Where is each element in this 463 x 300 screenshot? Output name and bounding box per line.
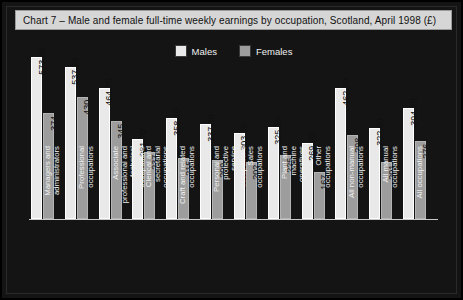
bar-males[interactable]: 325.20 bbox=[268, 127, 279, 219]
category-tick: Personal and protective service occupati… bbox=[200, 222, 234, 298]
category-tick: All non-manual occupations bbox=[335, 222, 369, 298]
category-label: Associate professional and technical occ… bbox=[112, 146, 146, 222]
bar-value-label: 537.20 bbox=[70, 57, 80, 85]
category-label: All non-manual occupations bbox=[348, 146, 365, 222]
bar-males[interactable]: 573.40 bbox=[31, 57, 42, 219]
category-label: Personal and protective service occupati… bbox=[213, 146, 247, 222]
category-tick: Other occupations bbox=[302, 222, 336, 298]
category-tick: Managers and administrators bbox=[31, 222, 65, 298]
category-label: All occupations bbox=[416, 146, 425, 222]
bar-males[interactable]: 462.30 bbox=[335, 88, 346, 219]
category-tick: Sales occupations bbox=[234, 222, 268, 298]
bar-value-label: 462.30 bbox=[341, 78, 351, 106]
bar-males[interactable]: 537.20 bbox=[65, 67, 76, 219]
category-label: Clerical and secretarial occupations bbox=[145, 146, 171, 222]
legend-item-males[interactable]: Males bbox=[175, 45, 217, 57]
bar-value-label: 464.70 bbox=[104, 78, 114, 106]
category-label: Professional occupations bbox=[78, 146, 95, 222]
category-label: Other occupations bbox=[315, 146, 332, 222]
category-tick: Professional occupations bbox=[65, 222, 99, 298]
category-tick: Plant and machine operatives bbox=[268, 222, 302, 298]
bar-value-label: 394.60 bbox=[409, 98, 419, 126]
bar-value-label: 374.10 bbox=[49, 103, 59, 131]
category-label: Craft and related occupations bbox=[179, 146, 196, 222]
bar-males[interactable]: 394.60 bbox=[403, 108, 414, 219]
bar-value-label: 325.20 bbox=[273, 117, 283, 145]
category-label: Managers and administrators bbox=[44, 146, 61, 222]
page-title: Chart 7 – Male and female full-time week… bbox=[23, 15, 436, 26]
legend-item-females[interactable]: Females bbox=[239, 45, 292, 57]
bar-value-label: 430.30 bbox=[82, 87, 92, 115]
bar-value-label: 358.40 bbox=[172, 108, 182, 136]
legend-label: Females bbox=[256, 46, 292, 57]
bar-value-label: 337.30 bbox=[206, 114, 216, 142]
chart-frame: Chart 7 – Male and female full-time week… bbox=[0, 0, 463, 300]
bar-value-label: 345.60 bbox=[116, 111, 126, 139]
legend-swatch-icon bbox=[239, 45, 251, 57]
category-label: Sales occupations bbox=[247, 146, 264, 222]
legend-label: Males bbox=[192, 46, 217, 57]
bar-males[interactable]: 322.60 bbox=[369, 128, 380, 219]
category-axis-labels: Managers and administratorsProfessional … bbox=[31, 222, 437, 298]
category-label: Plant and machine operatives bbox=[281, 146, 307, 222]
category-tick: All manual occupations bbox=[369, 222, 403, 298]
bar-males[interactable]: 464.70 bbox=[99, 88, 110, 219]
chart-title-bar: Chart 7 – Male and female full-time week… bbox=[15, 10, 452, 30]
category-tick: Clerical and secretarial occupations bbox=[132, 222, 166, 298]
category-tick: Associate professional and technical occ… bbox=[99, 222, 133, 298]
category-tick: All occupations bbox=[403, 222, 437, 298]
category-tick: Craft and related occupations bbox=[166, 222, 200, 298]
category-label: All manual occupations bbox=[382, 146, 399, 222]
bar-value-label: 322.60 bbox=[375, 118, 385, 146]
legend-swatch-icon bbox=[175, 45, 187, 57]
bar-males[interactable]: 337.30 bbox=[200, 124, 211, 219]
